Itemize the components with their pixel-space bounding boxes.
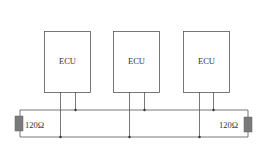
terminator-resistor-right (244, 117, 252, 132)
ecu-node-2: ECU (114, 32, 160, 139)
terminator-label-left: 120Ω (25, 120, 44, 130)
terminator-label-right: 120Ω (219, 120, 238, 130)
terminator-resistor-left (15, 116, 23, 131)
can-bus-diagram: 120Ω 120Ω ECU ECU ECU (0, 0, 265, 158)
ecu-label-2: ECU (128, 56, 145, 66)
ecu-label-3: ECU (198, 56, 215, 66)
ecu-label-1: ECU (59, 56, 76, 66)
ecu-node-1: ECU (45, 32, 91, 139)
